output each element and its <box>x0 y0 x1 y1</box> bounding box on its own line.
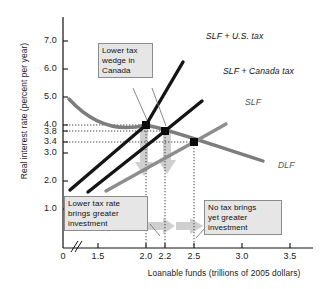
curve-label-dlf: DLF <box>278 160 295 170</box>
equilibrium-marker-notax <box>190 138 198 146</box>
arrow-right-2 <box>176 218 203 234</box>
x-tick-label-3.5: 3.5 <box>277 251 303 261</box>
y-tick-label-6.0: 6.0 <box>29 63 57 73</box>
callout-tax-wedge-line2: wedge in <box>102 56 149 66</box>
callout-lower-tax-rate: Lower tax rate brings greater investment <box>64 196 148 231</box>
x-tick-label-3.0: 3.0 <box>229 251 255 261</box>
y-tick-label-3.8: 3.8 <box>29 126 57 136</box>
y-tick-label-2.0: 2.0 <box>29 175 57 185</box>
y-axis-title: Real interest rate (percent per year) <box>19 16 33 206</box>
callout-no-tax-line3: investment <box>208 223 278 233</box>
callout-lower-tax-rate-line3: investment <box>68 219 144 229</box>
curve-label-slf-canada-tax: SLF + Canada tax <box>223 66 294 76</box>
y-tick-label-3.4: 3.4 <box>29 136 57 146</box>
leader-wedge-1 <box>133 88 147 120</box>
x-tick-label-1.5: 1.5 <box>85 251 111 261</box>
callout-lower-tax-rate-line2: brings greater <box>68 209 144 219</box>
y-tick-label-5.0: 5.0 <box>29 91 57 101</box>
callout-no-tax: No tax brings yet greater investment <box>204 200 282 235</box>
y-tick-label-7.0: 7.0 <box>29 35 57 45</box>
callout-tax-wedge-line3: Canada <box>102 66 149 76</box>
equilibrium-marker-us <box>142 121 150 129</box>
x-tick-label-0: 0 <box>50 251 76 261</box>
callout-lower-tax-rate-line1: Lower tax rate <box>68 199 144 209</box>
callout-no-tax-line2: yet greater <box>208 213 278 223</box>
callout-tax-wedge: Lower tax wedge in Canada <box>98 43 153 78</box>
equilibrium-marker-canada <box>161 127 169 135</box>
y-tick-label-3.0: 3.0 <box>29 147 57 157</box>
x-tick-label-2.2: 2.2 <box>152 251 178 261</box>
x-tick-label-2.5: 2.5 <box>181 251 207 261</box>
curve-label-slf-us-tax: SLF + U.S. tax <box>206 31 263 41</box>
chart-figure: 7.0 6.0 5.0 4.0 3.8 3.4 3.0 2.0 1.0 0 1.… <box>0 0 321 289</box>
y-tick-label-1.0: 1.0 <box>29 203 57 213</box>
callout-tax-wedge-line1: Lower tax <box>102 46 149 56</box>
x-axis-title: Loanable funds (trillions of 2005 dollar… <box>128 268 320 278</box>
curve-label-slf: SLF <box>245 97 261 107</box>
callout-no-tax-line1: No tax brings <box>208 203 278 213</box>
